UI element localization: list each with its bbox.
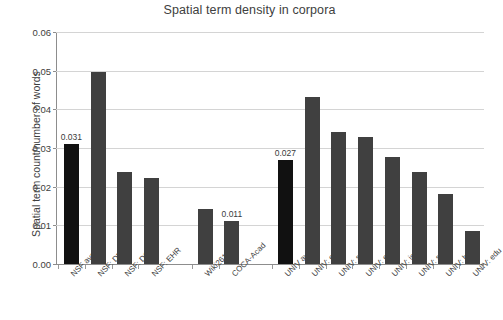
x-tick-mark — [272, 265, 273, 269]
x-tick-mark — [459, 265, 460, 269]
y-tick-mark — [53, 148, 56, 149]
bar-value-label: 0.031 — [61, 132, 82, 142]
y-tick-label: 0.03 — [33, 143, 52, 154]
x-tick-mark — [483, 265, 484, 269]
plot-area: 0.000.010.020.030.040.050.060.031NSF avg… — [56, 32, 484, 264]
bar[interactable] — [385, 157, 400, 264]
bar[interactable]: 0.031 — [64, 144, 79, 264]
gridline — [56, 71, 484, 72]
y-tick-label: 0.05 — [33, 65, 52, 76]
x-tick-mark — [85, 265, 86, 269]
bar-value-label: 0.011 — [222, 209, 243, 219]
bar[interactable]: 0.027 — [278, 160, 293, 264]
bar[interactable]: 0.011 — [224, 221, 239, 264]
bar[interactable] — [117, 172, 132, 264]
y-tick-mark — [53, 187, 56, 188]
x-tick-mark — [192, 265, 193, 269]
bar[interactable] — [465, 231, 480, 264]
x-tick-mark — [219, 265, 220, 269]
gridline — [56, 148, 484, 149]
bar[interactable] — [305, 97, 320, 264]
y-tick-mark — [53, 264, 56, 265]
bar[interactable] — [198, 209, 213, 264]
gridline — [56, 109, 484, 110]
bar-value-label: 0.027 — [275, 148, 296, 158]
y-tick-label: 0.00 — [33, 259, 52, 270]
x-tick-mark — [326, 265, 327, 269]
x-tick-mark — [379, 265, 380, 269]
bar[interactable] — [438, 194, 453, 264]
x-tick-mark — [352, 265, 353, 269]
y-tick-mark — [53, 109, 56, 110]
bar[interactable] — [412, 172, 427, 264]
y-tick-label: 0.02 — [33, 181, 52, 192]
chart-title: Spatial term density in corpora — [0, 3, 499, 17]
x-axis-line — [56, 264, 484, 265]
bar[interactable] — [331, 132, 346, 264]
y-tick-label: 0.06 — [33, 27, 52, 38]
y-tick-mark — [53, 32, 56, 33]
x-tick-mark — [299, 265, 300, 269]
bar[interactable] — [91, 72, 106, 264]
x-tick-mark — [138, 265, 139, 269]
y-tick-mark — [53, 71, 56, 72]
bar[interactable] — [358, 137, 373, 264]
y-tick-mark — [53, 225, 56, 226]
x-tick-mark — [112, 265, 113, 269]
y-tick-label: 0.01 — [33, 220, 52, 231]
x-tick-mark — [433, 265, 434, 269]
gridline — [56, 32, 484, 33]
x-tick-mark — [58, 265, 59, 269]
bar[interactable] — [144, 178, 159, 264]
y-tick-label: 0.04 — [33, 104, 52, 115]
x-tick-mark — [406, 265, 407, 269]
